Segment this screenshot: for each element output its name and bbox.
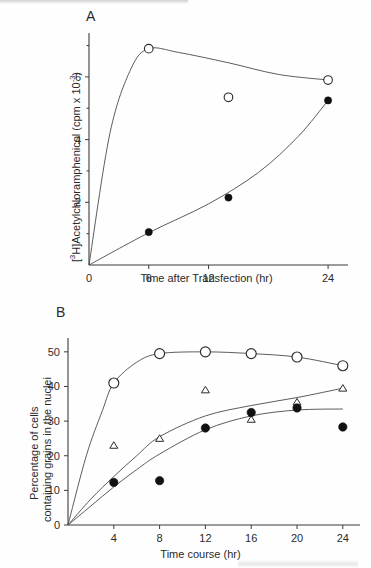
panel-a-datapoints [144,44,332,235]
panel-a-filled-circle-point [225,194,232,201]
panel-b-triangle-curve [68,388,343,525]
panel-a-plot: 246061224 [0,0,371,292]
panel-a: A 246061224 [3H]Acetylchloramphenicol (c… [0,0,371,292]
panel-b-filled-circle-point [247,408,255,416]
panel-b-open-circle-point [109,378,119,388]
y-title-mid: H]Acetylchloramphenicol (cpm x 10 [70,82,82,254]
panel-a-filled-circle-point [145,228,152,235]
panel-a-letter: A [86,8,96,24]
panel-a-curves [89,48,328,265]
panel-a-y-axis-title: [3H]Acetylchloramphenicol (cpm x 10-3) [68,72,82,262]
panel-b-triangle-point [201,386,209,393]
panel-b-y-tick-label: 50 [48,346,60,358]
panel-b-open-circle-curve [68,352,343,525]
panel-a-filled-circle-curve [89,100,328,265]
panel-b-curves [68,352,343,525]
panel-a-open-circle-curve [89,48,328,265]
panel-b-x-tick-label: 20 [291,532,303,544]
panel-b: B 010203040504812162024 [0,292,371,568]
panel-a-open-circle-point [324,76,333,85]
panel-b-triangle-point [110,442,118,449]
panel-b-filled-circle-point [201,424,209,432]
figure-root: A 246061224 [3H]Acetylchloramphenicol (c… [0,0,371,568]
panel-b-datapoints [109,347,348,487]
panel-b-x-tick-label: 12 [199,532,211,544]
panel-b-y-axis-title-line1: Percentage of cells [28,406,40,500]
panel-b-filled-circle-point [293,404,301,412]
panel-b-x-tick-label: 24 [337,532,349,544]
panel-a-tick-labels: 246061224 [75,71,334,284]
panel-b-tick-labels: 010203040504812162024 [48,346,349,544]
panel-b-open-circle-point [292,352,302,362]
panel-b-plot: 010203040504812162024 [0,292,371,568]
panel-b-x-axis-title: Time course (hr) [0,548,371,560]
panel-b-y-axis-title-line2: containing grains in the nuclei [41,377,53,522]
y-title-sup-3h: 3 [68,255,77,259]
panel-a-open-circle-point [224,93,233,102]
panel-b-filled-circle-point [155,476,163,484]
panel-b-filled-circle-point [339,423,347,431]
panel-a-x-axis-title: Time after Transfection (hr) [0,272,371,284]
y-title-suffix: ) [70,72,82,76]
panel-a-filled-circle-point [324,97,331,104]
panel-b-y-tick-label: 0 [54,519,60,531]
panel-b-x-tick-label: 16 [245,532,257,544]
panel-b-open-circle-point [155,349,165,359]
panel-b-triangle-point [339,385,347,392]
panel-b-open-circle-point [246,349,256,359]
y-title-prefix: [ [70,259,82,262]
panel-b-open-circle-point [338,361,348,371]
y-title-sup-exp: -3 [68,76,77,83]
panel-b-x-tick-label: 8 [157,532,163,544]
panel-b-x-tick-label: 4 [111,532,117,544]
panel-a-axes [85,33,348,269]
panel-b-axes [64,338,360,529]
panel-b-filled-circle-point [110,478,118,486]
panel-b-letter: B [56,304,66,320]
panel-a-open-circle-point [144,44,153,53]
panel-b-open-circle-point [200,347,210,357]
